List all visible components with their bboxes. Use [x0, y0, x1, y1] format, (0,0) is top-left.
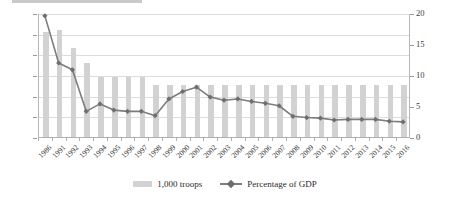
left-axis-tickmark — [33, 76, 37, 77]
x-axis-tickmark — [314, 138, 315, 141]
line-marker — [221, 98, 226, 103]
right-axis-tick-label: 10 — [416, 71, 446, 80]
cropped-header-artifact — [12, 0, 142, 3]
right-axis-tickmark — [410, 14, 414, 15]
x-axis-tickmark — [327, 138, 328, 141]
line-marker — [125, 109, 130, 114]
left-axis-tickmark — [33, 55, 37, 56]
right-axis-tickmark — [410, 45, 414, 46]
x-axis-tickmark — [231, 138, 232, 141]
x-axis-tickmark — [286, 138, 287, 141]
left-axis-tickmark — [33, 14, 37, 15]
line-marker — [373, 117, 378, 122]
line-marker — [401, 119, 406, 124]
left-axis-tickmark — [33, 117, 37, 118]
right-axis-tickmark — [410, 138, 414, 139]
x-axis-tickmark — [52, 138, 53, 141]
right-axis-tick-label: 5 — [416, 102, 446, 111]
x-axis-tickmark — [272, 138, 273, 141]
x-axis-tickmark — [190, 138, 191, 141]
x-axis-tickmark — [162, 138, 163, 141]
x-axis-tickmark — [66, 138, 67, 141]
x-axis-tickmark — [79, 138, 80, 141]
right-axis-tick-label: 20 — [416, 9, 446, 18]
line-marker — [235, 96, 240, 101]
line-marker — [139, 109, 144, 114]
x-axis-tickmark — [245, 138, 246, 141]
x-axis-tickmark — [355, 138, 356, 141]
x-axis-tickmark — [300, 138, 301, 141]
right-axis-tickmark — [410, 76, 414, 77]
line-marker — [70, 67, 75, 72]
x-axis-tickmark — [217, 138, 218, 141]
line-marker — [249, 99, 254, 104]
line-marker — [263, 101, 268, 106]
right-axis-tickmark — [410, 107, 414, 108]
x-axis-tickmark — [93, 138, 94, 141]
x-axis-tickmark — [382, 138, 383, 141]
chart-figure: 020040060080010001200 05101520 198619911… — [0, 0, 450, 200]
x-axis-tickmark — [107, 138, 108, 141]
legend-label-gdp: Percentage of GDP — [247, 179, 316, 189]
x-axis-tickmark — [121, 138, 122, 141]
x-axis-tickmark — [369, 138, 370, 141]
line-marker — [318, 116, 323, 121]
x-axis-tickmark — [258, 138, 259, 141]
x-axis-tickmark — [38, 138, 39, 141]
line-marker — [332, 117, 337, 122]
line-path — [45, 16, 403, 122]
x-axis-tickmark — [203, 138, 204, 141]
x-axis-tickmark — [148, 138, 149, 141]
bar-swatch-icon — [133, 181, 152, 187]
line-marker — [42, 13, 47, 18]
left-axis-tickmark — [33, 35, 37, 36]
legend-label-troops: 1,000 troops — [157, 179, 202, 189]
x-axis-tickmark — [341, 138, 342, 141]
line-marker — [111, 108, 116, 113]
line-marker — [359, 117, 364, 122]
line-series — [38, 14, 410, 138]
line-marker-swatch-icon — [220, 180, 242, 188]
legend-item-troops: 1,000 troops — [133, 179, 202, 189]
left-axis-tickmark — [33, 138, 37, 139]
left-axis-tickmark — [33, 97, 37, 98]
chart-legend: 1,000 troops Percentage of GDP — [0, 176, 450, 192]
right-axis-tick-label: 15 — [416, 40, 446, 49]
x-axis-tickmark — [176, 138, 177, 141]
legend-item-gdp: Percentage of GDP — [220, 179, 316, 189]
right-axis-tick-label: 0 — [416, 133, 446, 142]
line-marker — [304, 115, 309, 120]
line-marker — [387, 119, 392, 124]
line-marker — [345, 117, 350, 122]
x-axis-tickmark — [396, 138, 397, 141]
line-marker — [56, 60, 61, 65]
x-axis-tickmark — [134, 138, 135, 141]
